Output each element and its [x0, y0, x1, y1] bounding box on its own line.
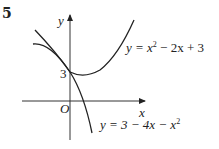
question-number: 5 — [2, 5, 12, 21]
origin-label: O — [60, 101, 70, 116]
curve-upward-parabola — [33, 20, 134, 75]
equation-upward-parabola: y = x2 − 2x + 3 — [124, 40, 204, 55]
y-axis-label: y — [56, 13, 64, 28]
equation-downward-parabola: y = 3 − 4x − x2 — [98, 117, 180, 132]
y-intercept-label: 3 — [60, 66, 67, 81]
graph-diagram: 5 y x O 3 y = x2 − 2x + 3 y = 3 − 4x − x… — [0, 0, 219, 149]
